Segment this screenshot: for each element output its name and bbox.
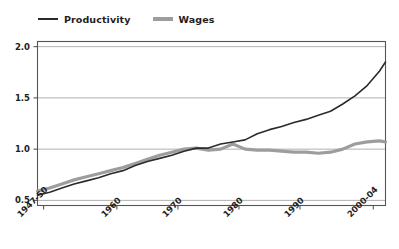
chart-figure: Productivity Wages 2.01.51.00.5 1947-501… xyxy=(0,0,399,249)
y-axis-tick-label: 2.0 xyxy=(4,42,30,52)
series-line-wages xyxy=(38,141,386,191)
plot-frame xyxy=(38,42,386,206)
y-axis-tick-label: 1.0 xyxy=(4,144,30,154)
y-axis-tick-label: 1.5 xyxy=(4,93,30,103)
plot-area xyxy=(0,0,399,249)
